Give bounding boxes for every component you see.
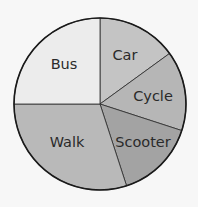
slice-label-car: Car <box>113 47 138 63</box>
slice-label-cycle: Cycle <box>133 88 173 104</box>
pie-slices <box>14 18 186 190</box>
slice-label-walk: Walk <box>50 134 85 150</box>
slice-label-bus: Bus <box>51 56 78 72</box>
pie-chart: Car Cycle Scooter Walk Bus <box>0 0 198 207</box>
slice-label-scooter: Scooter <box>115 134 171 150</box>
